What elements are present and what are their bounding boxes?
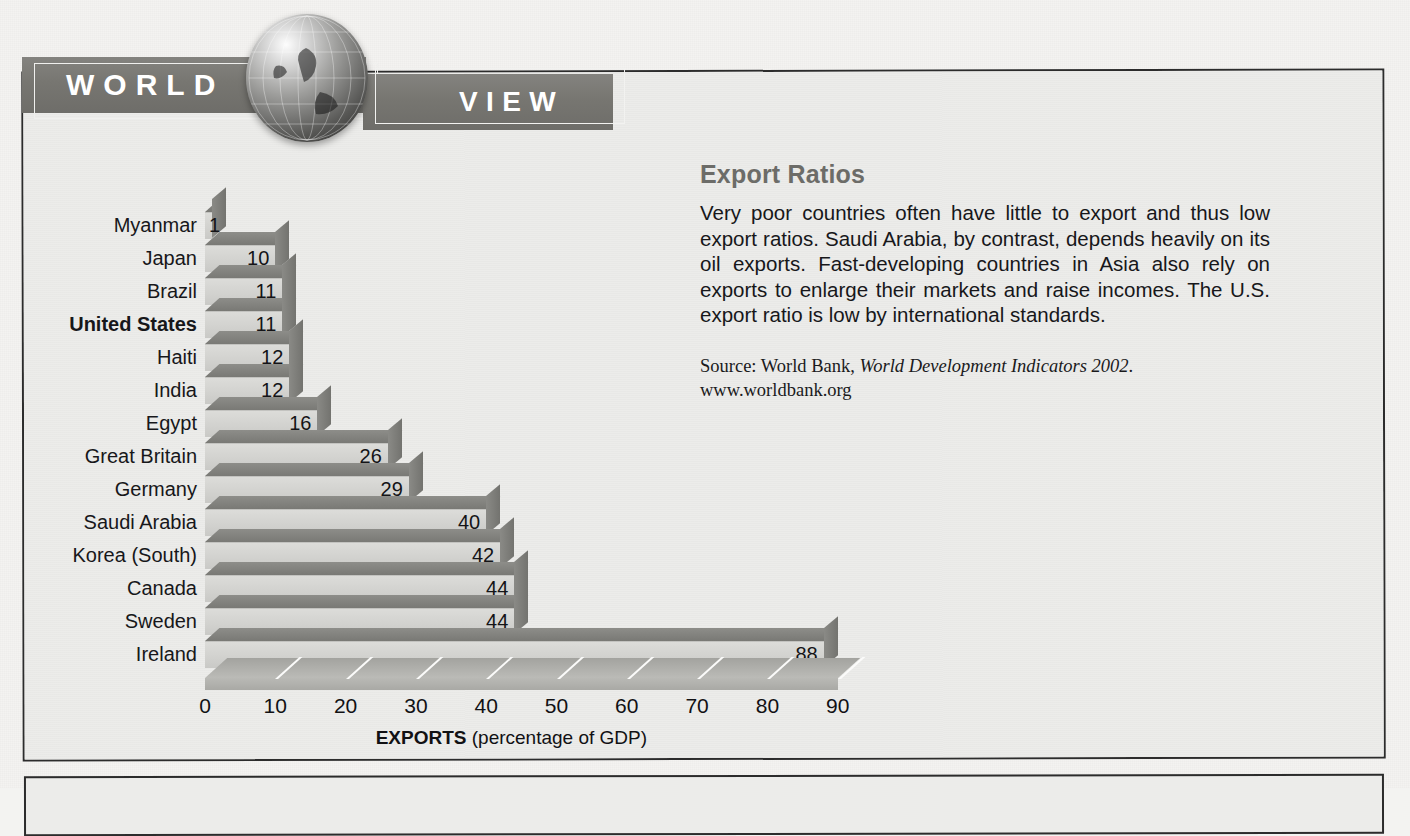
axis-tick-label: 40 — [456, 694, 516, 718]
axis-tick-label: 90 — [808, 694, 868, 718]
category-label: Egypt — [0, 412, 197, 435]
axis-tick-label: 0 — [175, 694, 235, 718]
bar-top-face — [205, 529, 515, 542]
bar-end-cap — [500, 517, 514, 568]
panel-source: Source: World Bank, World Development In… — [700, 354, 1300, 402]
category-label: Canada — [0, 577, 197, 600]
category-label: Brazil — [0, 280, 197, 303]
axis-tick-label: 30 — [386, 694, 446, 718]
x-axis-title-bold: EXPORTS — [376, 727, 467, 748]
axis-floor-top — [205, 658, 860, 678]
category-label: Great Britain — [0, 445, 197, 468]
bar-top-face — [205, 463, 423, 476]
panel-source-url: www.worldbank.org — [700, 380, 852, 400]
axis-tick-label: 80 — [737, 694, 797, 718]
x-axis-title-rest: (percentage of GDP) — [466, 727, 647, 748]
axis-tick-label: 60 — [597, 694, 657, 718]
category-label: Germany — [0, 478, 197, 501]
axis-tick-label: 70 — [667, 694, 727, 718]
bar-top-face — [205, 628, 838, 641]
category-label: Korea (South) — [0, 544, 197, 567]
bar-end-cap — [317, 385, 331, 436]
category-label: Ireland — [0, 643, 197, 666]
category-label: Saudi Arabia — [0, 511, 197, 534]
bar-top-face — [205, 562, 529, 575]
source-prefix: Source: World Bank, — [700, 356, 860, 376]
source-title: World Development Indicators 2002 — [860, 356, 1129, 376]
bar-top-face — [205, 397, 332, 410]
panel-title: Export Ratios — [700, 160, 1360, 189]
category-label: Myanmar — [0, 214, 197, 237]
category-label: Haiti — [0, 346, 197, 369]
category-label: India — [0, 379, 197, 402]
bar-top-face — [205, 430, 402, 443]
category-label: Japan — [0, 247, 197, 270]
axis-floor-front — [205, 678, 838, 690]
source-suffix: . — [1129, 356, 1134, 376]
x-axis-title: EXPORTS (percentage of GDP) — [195, 727, 828, 749]
bar-top-face — [205, 595, 529, 608]
secondary-frame — [24, 774, 1384, 836]
axis-tick-label: 50 — [527, 694, 587, 718]
category-label: Sweden — [0, 610, 197, 633]
bar-end-cap — [388, 418, 402, 469]
category-label: United States — [0, 313, 197, 336]
axis-tick-label: 10 — [245, 694, 305, 718]
axis-tick-label: 20 — [316, 694, 376, 718]
side-note-panel: Export Ratios Very poor countries often … — [700, 160, 1360, 402]
bar-end-cap — [409, 451, 423, 502]
bar-end-cap — [486, 484, 500, 535]
panel-body-text: Very poor countries often have little to… — [700, 200, 1270, 328]
bar-top-face — [205, 496, 501, 509]
